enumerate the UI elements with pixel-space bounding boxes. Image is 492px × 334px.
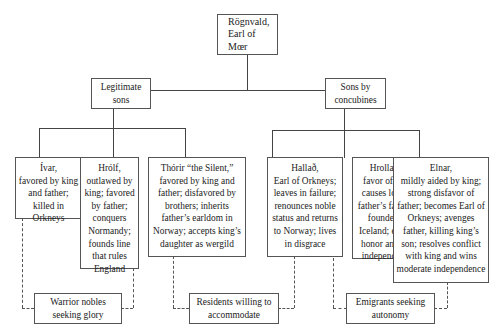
category-label: autonomy bbox=[347, 309, 434, 322]
root-node-rognvald: Rögnvald, Earl of Mœr bbox=[217, 14, 278, 55]
son-desc: mildly aided by king; strong disfavor of… bbox=[394, 175, 488, 276]
elnar-dashed bbox=[447, 282, 448, 308]
son-desc: favored by king and father; disfavored b… bbox=[149, 175, 245, 251]
thorir-dashed bbox=[173, 256, 174, 308]
category-label: Warrior nobles bbox=[35, 296, 121, 309]
elnar-dashed-h bbox=[434, 308, 447, 309]
son-desc: Earl of Orkneys; leaves in failure; reno… bbox=[268, 175, 342, 251]
category-label: accommodate bbox=[190, 309, 278, 322]
group-label: Sons by bbox=[326, 81, 385, 94]
concubine-connector bbox=[344, 108, 345, 130]
son-hrolf: Hrólf, outlawed by king; favored by fath… bbox=[80, 157, 139, 269]
hallad-dashed bbox=[294, 256, 295, 308]
son-name: Thórir “the Silent,” bbox=[149, 162, 245, 175]
hrollaug-drop bbox=[344, 130, 345, 158]
category-label: Residents willing to bbox=[190, 296, 278, 309]
son-thorir: Thórir “the Silent,” favored by king and… bbox=[148, 157, 246, 257]
root-name: Rögnvald, bbox=[228, 16, 277, 29]
group-sons-by-concubines: Sons by concubines bbox=[325, 78, 386, 109]
thorir-drop bbox=[185, 128, 186, 158]
legit-bar bbox=[39, 128, 185, 129]
son-desc: outlawed by king; favored by father; con… bbox=[81, 175, 138, 276]
son-name: Ívar, bbox=[16, 162, 81, 175]
hrolf-drop bbox=[113, 128, 114, 158]
category-warrior-nobles: Warrior nobles seeking glory bbox=[34, 293, 122, 324]
ivar-dashed bbox=[22, 218, 23, 308]
root-title: Earl of Mœr bbox=[228, 28, 277, 53]
son-name: Hallað, bbox=[268, 162, 342, 175]
hallad-drop bbox=[272, 130, 273, 158]
ivar-drop bbox=[39, 128, 40, 158]
son-elnar: Elnar, mildly aided by king; strong disf… bbox=[393, 157, 489, 283]
hrollaug-dashed bbox=[333, 258, 334, 308]
hrollaug-dashed-h bbox=[333, 308, 347, 309]
group-label: concubines bbox=[326, 94, 385, 107]
group-legitimate-sons: Legitimate sons bbox=[91, 78, 151, 109]
category-label: seeking glory bbox=[35, 309, 121, 322]
root-connector bbox=[247, 54, 248, 91]
son-ivar: Ívar, favored by king and father; killed… bbox=[15, 157, 82, 219]
son-name: Hrólf, bbox=[81, 162, 138, 175]
son-hallad: Hallað, Earl of Orkneys; leaves in failu… bbox=[267, 157, 343, 257]
son-desc: favored by king and father; killed in Or… bbox=[16, 175, 81, 225]
elnar-drop bbox=[419, 130, 420, 158]
legit-connector bbox=[113, 108, 114, 128]
son-name: Elnar, bbox=[394, 162, 488, 175]
hallad-dashed-h bbox=[278, 308, 294, 309]
hrolf-dashed-h bbox=[121, 308, 133, 309]
concubine-bar bbox=[272, 130, 419, 131]
group-connector bbox=[150, 90, 325, 91]
category-emigrants: Emigrants seeking autonomy bbox=[346, 293, 435, 324]
thorir-dashed-h bbox=[173, 308, 189, 309]
category-label: Emigrants seeking bbox=[347, 296, 434, 309]
category-residents: Residents willing to accommodate bbox=[189, 293, 279, 324]
ivar-dashed-h bbox=[22, 308, 34, 309]
group-label: sons bbox=[92, 94, 150, 107]
group-label: Legitimate bbox=[92, 81, 150, 94]
